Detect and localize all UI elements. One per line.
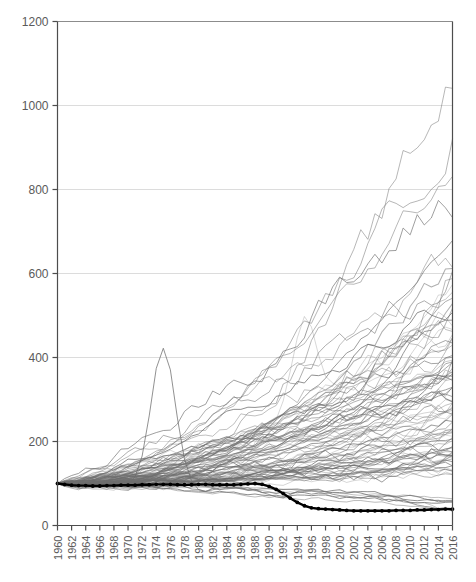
x-tick-label: 1968 (108, 536, 120, 560)
x-tick-label: 1960 (52, 536, 64, 560)
x-tick-label: 2008 (390, 536, 402, 560)
x-tick-label: 2010 (404, 536, 416, 560)
x-tick-label: 1964 (80, 536, 92, 560)
x-tick-label: 1982 (207, 536, 219, 560)
x-tick-label: 2006 (376, 536, 388, 560)
y-tick-label: 400 (28, 351, 48, 365)
y-tick-label: 1000 (22, 99, 49, 113)
x-tick-label: 1972 (136, 536, 148, 560)
x-tick-label: 2002 (348, 536, 360, 560)
y-tick-label: 1200 (22, 15, 49, 29)
y-tick-label: 200 (28, 435, 48, 449)
x-tick-label: 2000 (334, 536, 346, 560)
x-tick-label: 1998 (320, 536, 332, 560)
x-tick-label: 1966 (94, 536, 106, 560)
x-tick-label: 1984 (221, 536, 233, 560)
x-tick-label: 2014 (433, 536, 445, 560)
x-tick-label: 1986 (235, 536, 247, 560)
x-tick-label: 1992 (277, 536, 289, 560)
x-tick-label: 1976 (165, 536, 177, 560)
x-tick-label: 1996 (306, 536, 318, 560)
x-tick-label: 1970 (122, 536, 134, 560)
x-tick-label: 2016 (447, 536, 459, 560)
y-tick-label: 600 (28, 267, 48, 281)
spaghetti-line-chart: 020040060080010001200 196019621964196619… (0, 0, 476, 582)
x-tick-label: 2012 (418, 536, 430, 560)
x-tick-label: 1980 (193, 536, 205, 560)
x-tick-label: 1994 (292, 536, 304, 560)
x-tick-label: 1962 (66, 536, 78, 560)
y-tick-label: 0 (42, 519, 49, 533)
x-tick-label: 2004 (362, 536, 374, 560)
x-tick-label: 1978 (179, 536, 191, 560)
x-tick-label: 1990 (263, 536, 275, 560)
y-tick-label: 800 (28, 183, 48, 197)
x-tick-label: 1988 (249, 536, 261, 560)
x-tick-label: 1974 (150, 536, 162, 560)
chart-container: 020040060080010001200 196019621964196619… (0, 0, 476, 582)
